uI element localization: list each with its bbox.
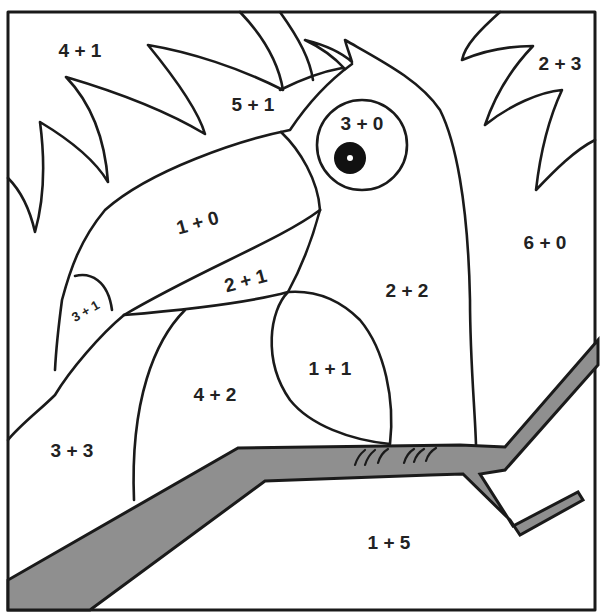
label-sky-bottom-left: 3 + 3 [51,440,94,461]
label-beak-tip: 3 + 1 [69,297,102,325]
branch [8,340,598,610]
toucan-outline [8,12,476,500]
label-beak-lower: 2 + 1 [222,265,269,296]
label-eye: 3 + 0 [341,113,384,134]
leaf-shapes-left [8,12,283,232]
label-sky-top-right: 2 + 3 [539,53,582,74]
leaf-shapes-right [462,12,595,190]
label-bird-chest: 2 + 2 [386,280,429,301]
pupil-highlight [347,155,353,161]
label-wing: 1 + 1 [309,358,352,379]
label-leaf-top-middle: 5 + 1 [232,94,275,115]
label-sky-right: 6 + 0 [524,232,567,253]
label-beak-upper: 1 + 0 [174,207,221,238]
label-sky-top-left: 4 + 1 [59,40,102,61]
coloring-page: 4 + 1 5 + 1 3 + 0 2 + 3 1 + 0 2 + 1 3 + … [0,0,608,615]
label-ground-bottom: 1 + 5 [368,532,411,553]
label-bird-belly: 4 + 2 [194,384,237,405]
